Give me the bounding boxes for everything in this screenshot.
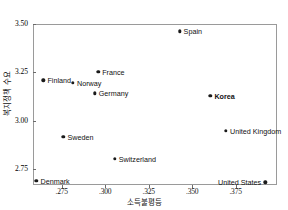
data-point-label: Finland — [47, 76, 71, 85]
y-tick-label: 2.75 — [0, 164, 31, 173]
data-point-label: Spain — [184, 27, 202, 36]
x-tick-mark — [149, 185, 150, 188]
data-point-label: Korea — [214, 91, 234, 100]
data-point-label: United Kingdom — [230, 126, 281, 135]
data-point-label: Norway — [77, 78, 101, 87]
data-point-label: Switzerland — [119, 155, 156, 164]
y-axis-title: 복지정책 수요 — [1, 62, 12, 126]
scatter-chart: 3.503.253.002.75 .275.300.325.350.375 Sp… — [0, 0, 288, 210]
data-point-label: United States — [218, 178, 261, 187]
x-tick-label: .300 — [85, 187, 125, 196]
data-point-label: France — [102, 67, 124, 76]
y-tick-mark — [33, 72, 36, 73]
x-tick-mark — [62, 185, 63, 188]
x-tick-mark — [105, 185, 106, 188]
y-tick-mark — [33, 24, 36, 25]
data-point-label: Sweden — [67, 132, 93, 141]
y-tick-mark — [33, 169, 36, 170]
x-tick-label: .275 — [42, 187, 82, 196]
y-tick-label: 3.50 — [0, 19, 31, 28]
data-point-label: Germany — [99, 89, 129, 98]
x-tick-label: .325 — [129, 187, 169, 196]
x-axis-title: 소득불평등 — [0, 196, 288, 207]
y-tick-mark — [33, 121, 36, 122]
data-point-label: Denmark — [40, 176, 69, 185]
x-tick-mark — [192, 185, 193, 188]
x-tick-label: .350 — [172, 187, 212, 196]
x-tick-label: .375 — [216, 187, 256, 196]
